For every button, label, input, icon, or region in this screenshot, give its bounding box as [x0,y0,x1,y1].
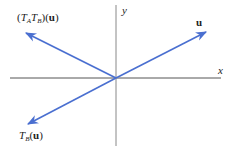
x-axis-label: x [218,65,223,76]
vector-tb-u [28,78,116,124]
paren: )( [41,11,48,23]
paren: ) [39,129,43,141]
vector-tatb-u [26,33,116,78]
y-axis-label: y [122,5,127,16]
paren: ) [55,11,59,23]
vector-u [116,32,206,78]
vector-tb-u-label: TB(u) [19,130,43,143]
vector-tatb-u-label: (TATB)(u) [17,12,59,25]
vector-u-label: u [196,17,202,28]
